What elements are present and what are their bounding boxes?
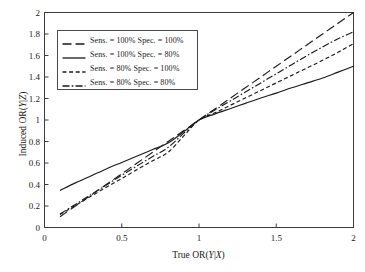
y-axis-title: Induced OR(Y|Z)	[18, 49, 28, 199]
legend-line-sample-solid	[62, 49, 86, 59]
x-tick-label: 1.5	[271, 234, 282, 243]
y-axis-title-var1: Y	[18, 102, 28, 107]
y-tick-label: 2	[14, 8, 40, 17]
x-tick-label: 0.5	[116, 234, 127, 243]
legend-item-label: Sens. = 80% Spec. = 100%	[90, 64, 179, 73]
legend-item-1: Sens. = 100% Spec. = 100%	[58, 33, 197, 47]
legend-item-2: Sens. = 100% Spec. = 80%	[58, 47, 197, 61]
legend-item-3: Sens. = 80% Spec. = 100%	[58, 61, 197, 75]
legend-line-sample-long-dash	[62, 35, 86, 45]
y-tick-label: 0.2	[14, 202, 40, 211]
x-axis-title: True OR(Y|X)	[44, 250, 353, 260]
x-axis-title-prefix: True OR(	[172, 250, 208, 260]
legend-item-label: Sens. = 100% Spec. = 100%	[90, 36, 184, 45]
y-axis-title-var2: Z	[18, 95, 28, 100]
y-axis-title-prefix: Induced OR(	[18, 107, 28, 156]
y-tick-label: 1.8	[14, 30, 40, 39]
legend-line-sample-dash-dot	[62, 77, 86, 87]
legend-item-4: Sens. = 80% Spec. = 80%	[58, 75, 197, 89]
x-axis-title-suffix: )	[222, 250, 225, 260]
y-axis-title-suffix: )	[18, 92, 28, 95]
x-tick-label: 2	[351, 234, 356, 243]
legend-line-sample-short-dash	[62, 63, 86, 73]
y-tick-label: 0	[14, 223, 40, 232]
x-tick-label: 1	[197, 234, 202, 243]
legend-item-label: Sens. = 80% Spec. = 80%	[90, 78, 175, 87]
legend-item-label: Sens. = 100% Spec. = 80%	[90, 50, 179, 59]
x-tick-label: 0	[42, 234, 47, 243]
chart-legend: Sens. = 100% Spec. = 100%Sens. = 100% Sp…	[57, 30, 198, 90]
y-axis-title-sep: |	[18, 100, 28, 102]
figure-container: 00.20.40.60.811.21.41.61.8200.511.52 Ind…	[0, 0, 365, 272]
